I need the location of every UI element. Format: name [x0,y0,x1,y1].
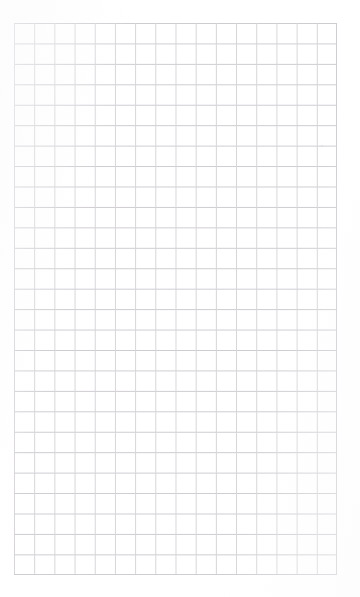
graph-paper-grid [14,23,337,575]
paper-sheet [0,0,360,597]
page-root [0,0,360,597]
scan-speck-artifact [321,145,323,147]
